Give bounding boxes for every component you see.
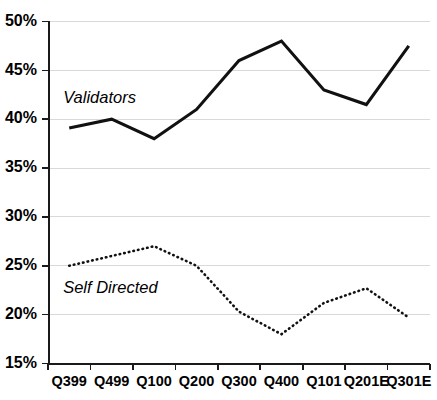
y-tick-label: 25% [5, 256, 37, 273]
series-label-validators: Validators [63, 88, 136, 106]
x-tick-label-q301e: Q301E [386, 373, 431, 389]
x-tick-label-q201e: Q201E [344, 373, 389, 389]
chart-canvas: 50%45%40%35%30%25%20%15% Q399Q499Q100Q20… [0, 0, 437, 400]
x-tick-label-q400: Q400 [264, 373, 299, 389]
x-tick-label-q200: Q200 [179, 373, 214, 389]
y-tick-label-group: 50%45%40%35%30%25%20%15% [5, 12, 37, 371]
y-tick-group [42, 22, 48, 364]
x-tick-label-q399: Q399 [51, 373, 86, 389]
y-tick-label: 50% [5, 12, 37, 29]
line-chart: 50%45%40%35%30%25%20%15% Q399Q499Q100Q20… [0, 0, 437, 400]
x-tick-label-group: Q399Q499Q100Q200Q300Q400Q101Q201EQ301E [51, 373, 431, 389]
y-tick-label: 15% [5, 354, 37, 371]
x-tick-label-q101: Q101 [306, 373, 341, 389]
x-tick-label-q100: Q100 [136, 373, 171, 389]
x-tick-label-q499: Q499 [94, 373, 129, 389]
x-tick-label-q300: Q300 [221, 373, 256, 389]
y-tick-label: 30% [5, 207, 37, 224]
series-label-self-directed: Self Directed [63, 278, 158, 296]
y-tick-label: 20% [5, 305, 37, 322]
y-tick-label: 45% [5, 61, 37, 78]
y-tick-label: 35% [5, 158, 37, 175]
y-tick-label: 40% [5, 109, 37, 126]
